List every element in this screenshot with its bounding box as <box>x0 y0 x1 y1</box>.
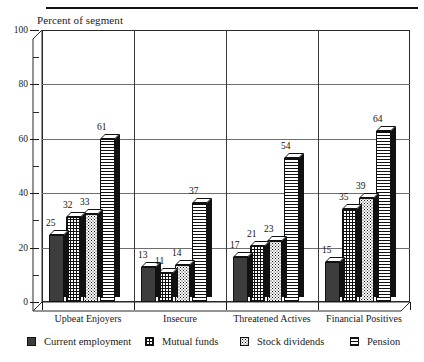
bar-side-face <box>81 212 86 297</box>
y-tick-label-60: 60 <box>19 134 29 144</box>
bar-value-label-0-0: 25 <box>46 218 56 228</box>
y-tick-minor-70 <box>33 112 39 113</box>
legend-swatch-grid-icon <box>145 337 154 346</box>
bar-side-face <box>374 193 379 297</box>
bar-value-label-2-1: 21 <box>247 229 257 239</box>
bar-value-label-0-3: 61 <box>97 122 107 132</box>
bar-side-face <box>391 126 396 297</box>
gridline-cat-2 <box>226 30 227 302</box>
bar-front-face <box>49 235 64 302</box>
chart-legend: Current employment Mutual funds Stock di… <box>0 336 424 358</box>
y-tick-label-80: 80 <box>19 79 29 89</box>
bar-value-label-1-3: 37 <box>189 186 199 196</box>
bar-value-label-1-2: 14 <box>172 248 182 258</box>
bar-side-face <box>98 209 103 297</box>
y-tick-label-0: 0 <box>23 297 28 307</box>
y-tick-minor-90 <box>33 57 39 58</box>
bar-side-face <box>64 230 69 297</box>
bar-side-face <box>156 262 161 297</box>
bar-side-face <box>265 241 270 297</box>
y-tick-40 <box>30 193 39 194</box>
legend-swatch-solid-icon <box>27 337 36 346</box>
bar-2-0 <box>233 257 248 302</box>
bar-value-label-3-2: 39 <box>356 181 366 191</box>
legend-label-3: Pension <box>367 336 400 347</box>
y-axis: 100 80 60 40 20 0 <box>0 0 42 302</box>
bar-front-face <box>325 262 340 302</box>
bar-side-face <box>282 236 287 297</box>
bar-value-label-2-2: 23 <box>264 224 274 234</box>
bar-value-label-2-3: 54 <box>281 141 291 151</box>
y-tick-label-40: 40 <box>19 188 29 198</box>
legend-label-0: Current employment <box>44 336 131 347</box>
bar-side-face <box>248 252 253 297</box>
y-tick-100 <box>30 30 39 31</box>
bar-side-face <box>357 204 362 297</box>
legend-item-current-employment: Current employment <box>27 336 131 347</box>
legend-swatch-hlines-icon <box>350 337 359 346</box>
legend-swatch-dots-icon <box>240 337 249 346</box>
bar-3-0 <box>325 262 340 302</box>
bar-front-face <box>233 257 248 302</box>
bar-side-face <box>115 134 120 297</box>
legend-label-2: Stock dividends <box>257 336 324 347</box>
x-axis: Upbeat Enjoyers Insecure Threatened Acti… <box>33 302 423 332</box>
y-tick-20 <box>30 248 39 249</box>
bar-1-0 <box>141 267 156 302</box>
y-tick-minor-30 <box>33 220 39 221</box>
x-tick-end <box>410 302 411 310</box>
y-tick-80 <box>30 84 39 85</box>
legend-item-pension: Pension <box>350 336 400 347</box>
bar-0-0 <box>49 235 64 302</box>
x-tick-3 <box>318 302 319 310</box>
bar-value-label-3-3: 64 <box>373 114 383 124</box>
x-category-label-2: Threatened Actives <box>233 313 310 324</box>
y-tick-label-20: 20 <box>19 243 29 253</box>
bar-value-label-1-0: 13 <box>138 250 148 260</box>
x-category-label-3: Financial Positives <box>326 313 402 324</box>
x-tick-2 <box>226 302 227 310</box>
x-category-label-1: Insecure <box>163 313 197 324</box>
x-category-label-0: Upbeat Enjoyers <box>55 313 122 324</box>
bar-value-label-3-0: 15 <box>322 245 332 255</box>
bar-side-face <box>299 153 304 297</box>
y-tick-60 <box>30 139 39 140</box>
plot-area: 25323361131114371721235415353964 <box>42 30 410 302</box>
bar-side-face <box>207 198 212 297</box>
x-tick-start <box>42 302 43 310</box>
y-tick-minor-50 <box>33 166 39 167</box>
legend-item-stock-dividends: Stock dividends <box>240 336 324 347</box>
bar-value-label-2-0: 17 <box>230 240 240 250</box>
gridline-cat-3 <box>318 30 319 302</box>
bar-side-face <box>190 260 195 297</box>
x-tick-1 <box>134 302 135 310</box>
bar-value-label-3-1: 35 <box>339 192 349 202</box>
y-tick-label-100: 100 <box>14 25 28 35</box>
legend-item-mutual-funds: Mutual funds <box>145 336 218 347</box>
bar-front-face <box>141 267 156 302</box>
bar-side-face <box>340 257 345 297</box>
bar-value-label-0-1: 32 <box>63 200 73 210</box>
gridline-cat-1 <box>134 30 135 302</box>
y-tick-minor-10 <box>33 275 39 276</box>
bar-value-label-0-2: 33 <box>80 197 90 207</box>
bar-value-label-1-1: 11 <box>155 256 164 266</box>
legend-label-1: Mutual funds <box>162 336 218 347</box>
chart-figure: Percent of segment 100 80 60 40 20 0 <box>0 0 424 362</box>
